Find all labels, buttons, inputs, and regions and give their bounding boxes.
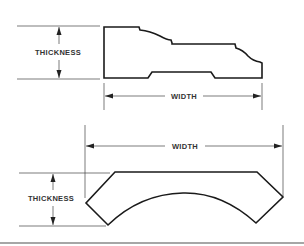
arched-profile-shape	[86, 172, 283, 225]
molding-dimension-diagram: THICKNESS WIDTH WIDTH THICKNESS	[0, 0, 304, 246]
bottom-width-label: WIDTH	[172, 142, 198, 151]
top-figure: THICKNESS WIDTH	[17, 26, 262, 110]
top-width-label: WIDTH	[171, 92, 197, 101]
casing-profile-shape	[104, 27, 262, 78]
bottom-figure: WIDTH THICKNESS	[19, 125, 283, 226]
bottom-thickness-label: THICKNESS	[28, 194, 74, 203]
arrow-up-icon	[51, 174, 56, 182]
top-thickness-label: THICKNESS	[35, 48, 81, 57]
arrow-down-icon	[51, 217, 56, 225]
arrow-left-icon	[105, 94, 113, 99]
arrow-right-icon	[253, 94, 261, 99]
arrow-up-icon	[57, 27, 62, 35]
arrow-down-icon	[57, 70, 62, 78]
arrow-right-icon	[274, 144, 282, 149]
arrow-left-icon	[86, 144, 94, 149]
